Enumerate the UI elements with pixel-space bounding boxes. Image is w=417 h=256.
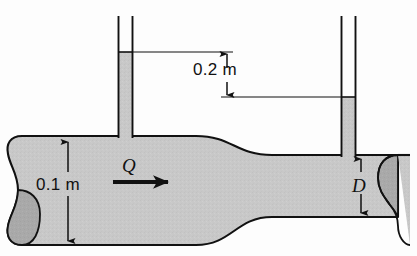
head-difference-label: 0.2 m [193,60,237,80]
flow-rate-label: Q [122,155,136,177]
figure-canvas: 0.2 m 0.1 m Q D [0,0,417,256]
inlet-opening [8,190,40,245]
inlet-diameter-label: 0.1 m [36,175,80,195]
inlet-ellipse [8,190,40,245]
right-tube-fluid [342,97,356,157]
pipe-diagram-svg [0,0,417,256]
left-piezometer-tube [119,16,133,138]
left-tube-fluid [119,52,133,138]
outlet-fill [398,155,410,245]
right-piezometer-tube [342,16,356,157]
outlet-diameter-label: D [352,175,366,197]
